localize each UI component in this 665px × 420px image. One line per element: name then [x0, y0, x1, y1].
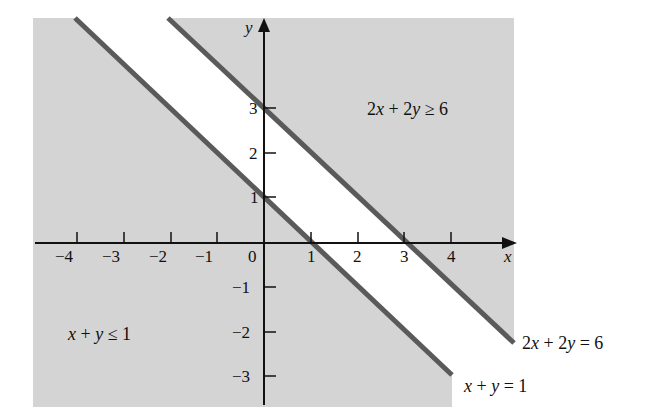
x-axis-label: x — [504, 248, 512, 265]
y-tick-label: 2 — [249, 145, 258, 162]
line-lower-label: x + y = 1 — [464, 377, 527, 395]
region-upper-label: 2x + 2y ≥ 6 — [367, 100, 448, 118]
x-tick-label: −4 — [55, 248, 73, 265]
x-tick-label: −2 — [149, 248, 167, 265]
x-tick-label: 4 — [447, 248, 456, 265]
line-upper-label: 2x + 2y = 6 — [522, 334, 603, 352]
x-tick-label: 3 — [400, 248, 409, 265]
x-tick-label: −1 — [195, 248, 213, 265]
x-tick-label: 2 — [353, 248, 362, 265]
x-tick-label: 0 — [248, 248, 257, 265]
y-tick-label: −2 — [232, 324, 250, 341]
region-lower-label: x + y ≤ 1 — [68, 325, 131, 343]
y-axis-label: y — [245, 19, 253, 36]
y-tick-label: 3 — [249, 100, 258, 117]
y-tick-label: 1 — [250, 189, 259, 206]
x-tick-label: 1 — [307, 248, 316, 265]
y-tick-label: −3 — [232, 368, 250, 385]
y-tick-label: −1 — [232, 279, 250, 296]
inequality-plot — [0, 0, 665, 420]
x-tick-label: −3 — [102, 248, 120, 265]
